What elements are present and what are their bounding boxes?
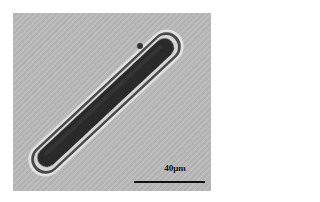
scale-bar-label: 40μm	[150, 163, 200, 173]
scale-bar	[134, 181, 205, 183]
